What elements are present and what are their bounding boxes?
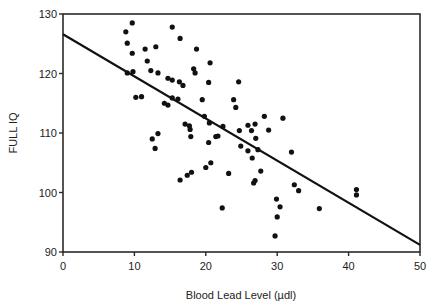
data-point <box>155 70 160 75</box>
data-point <box>143 47 148 52</box>
data-point <box>206 80 211 85</box>
data-point <box>188 134 193 139</box>
data-point <box>206 140 211 145</box>
data-point <box>231 97 236 102</box>
data-point <box>170 24 175 29</box>
data-point <box>203 165 208 170</box>
data-point <box>274 196 279 201</box>
data-point <box>272 233 277 238</box>
x-tick-label: 0 <box>60 260 66 272</box>
data-point <box>226 171 231 176</box>
y-axis: 90100110120130 <box>39 8 63 258</box>
x-axis: 01020304050 <box>60 252 426 272</box>
data-point <box>145 58 150 63</box>
x-tick-label: 10 <box>128 260 140 272</box>
data-point <box>133 95 138 100</box>
data-point <box>262 114 267 119</box>
data-point <box>215 133 220 138</box>
data-point <box>139 94 144 99</box>
data-point <box>245 123 250 128</box>
data-point <box>148 68 153 73</box>
data-points <box>123 20 359 238</box>
data-point <box>170 77 175 82</box>
data-point <box>250 155 255 160</box>
x-axis-title: Blood Lead Level (µdl) <box>186 289 296 301</box>
data-point <box>130 51 135 56</box>
x-tick-label: 30 <box>271 260 283 272</box>
data-point <box>200 97 205 102</box>
data-point <box>249 128 254 133</box>
data-point <box>266 127 271 132</box>
data-point <box>185 173 190 178</box>
data-point <box>317 206 322 211</box>
data-point <box>277 204 282 209</box>
data-point <box>252 121 257 126</box>
data-point <box>354 192 359 197</box>
y-tick-label: 90 <box>45 246 57 258</box>
x-tick-label: 40 <box>342 260 354 272</box>
data-point <box>251 180 256 185</box>
data-point <box>187 127 192 132</box>
y-tick-label: 110 <box>39 127 57 139</box>
y-tick-label: 130 <box>39 8 57 20</box>
data-point <box>125 41 130 46</box>
data-point <box>130 20 135 25</box>
scatter-chart: 90100110120130 01020304050 Blood Lead Le… <box>0 0 434 307</box>
data-point <box>123 29 128 34</box>
data-point <box>189 170 194 175</box>
data-point <box>289 149 294 154</box>
data-point <box>236 79 241 84</box>
data-point <box>245 148 250 153</box>
y-tick-label: 120 <box>39 68 57 80</box>
data-point <box>258 168 263 173</box>
y-axis-title: FULL IQ <box>7 112 19 154</box>
data-point <box>177 177 182 182</box>
data-point <box>150 136 155 141</box>
data-point <box>155 131 160 136</box>
data-point <box>153 44 158 49</box>
data-point <box>208 160 213 165</box>
data-point <box>237 128 242 133</box>
data-point <box>207 60 212 65</box>
regression-line-path <box>63 34 420 245</box>
data-point <box>165 102 170 107</box>
plot-frame <box>63 14 420 252</box>
x-tick-label: 50 <box>414 260 426 272</box>
data-point <box>280 116 285 121</box>
x-tick-label: 20 <box>200 260 212 272</box>
y-tick-label: 100 <box>39 187 57 199</box>
data-point <box>194 47 199 52</box>
data-point <box>296 188 301 193</box>
data-point <box>220 205 225 210</box>
data-point <box>253 136 258 141</box>
data-point <box>177 36 182 41</box>
data-point <box>354 187 359 192</box>
data-point <box>153 146 158 151</box>
data-point <box>233 105 238 110</box>
data-point <box>292 182 297 187</box>
regression-line <box>63 34 420 245</box>
data-point <box>275 214 280 219</box>
data-point <box>180 83 185 88</box>
data-point <box>192 70 197 75</box>
data-point <box>238 143 243 148</box>
